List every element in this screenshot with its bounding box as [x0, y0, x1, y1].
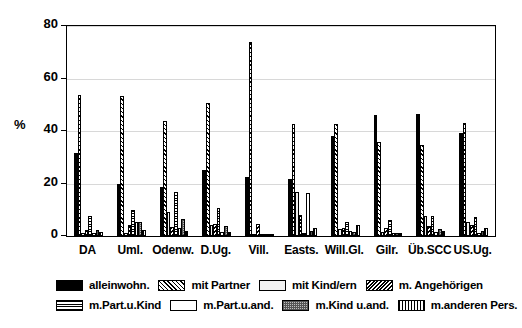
legend-swatch-light-gray	[259, 280, 286, 291]
bar-group	[238, 26, 281, 236]
legend-label: m.Part.u.Kind	[89, 299, 161, 311]
bar	[377, 142, 381, 236]
y-tick-label: 60	[0, 69, 58, 84]
bar	[206, 103, 210, 236]
bar-group	[153, 26, 196, 236]
plot-area	[66, 25, 496, 237]
legend-label: m.anderen Pers.	[431, 299, 518, 311]
bar	[120, 96, 124, 236]
legend-swatch-grid-hatch	[56, 300, 83, 311]
y-tick-label: 80	[0, 16, 58, 31]
bar	[99, 232, 103, 236]
legend-item[interactable]: alleinwohn.	[56, 279, 158, 291]
bar-group	[452, 26, 495, 236]
bar-group	[409, 26, 452, 236]
bar	[142, 230, 146, 236]
bar	[78, 95, 82, 236]
legend-swatch-gray-speckle	[282, 300, 309, 311]
legend-label: alleinwohn.	[89, 279, 149, 291]
bar	[249, 42, 253, 236]
legend-swatch-diagonal-hatch	[158, 280, 185, 291]
bar	[399, 233, 403, 236]
legend-item[interactable]: m. Angehörigen	[366, 279, 492, 291]
legend-item[interactable]: mit Kind/ern	[259, 279, 366, 291]
bar	[313, 228, 317, 236]
y-tick-label: 20	[0, 174, 58, 189]
bar	[463, 123, 467, 236]
bar	[484, 228, 488, 236]
y-axis: % 020406080	[0, 0, 66, 238]
legend-swatch-solid-black	[56, 280, 83, 291]
legend-label: m.Part.u.and.	[203, 299, 273, 311]
legend-swatch-vertical-stripe	[398, 300, 425, 311]
bar	[228, 232, 232, 236]
bar	[334, 124, 338, 236]
chart-legend: alleinwohn.mit Partnermit Kind/ernm. Ang…	[56, 275, 476, 315]
legend-swatch-white	[170, 300, 197, 311]
bar-group	[67, 26, 110, 236]
legend-item[interactable]: m.Part.u.and.	[170, 299, 282, 311]
bar-group	[110, 26, 153, 236]
bar	[270, 234, 274, 236]
legend-row-2: m.Part.u.Kindm.Part.u.and.m.Kind u.and.m…	[56, 295, 476, 315]
legend-item[interactable]: m.Kind u.and.	[282, 299, 397, 311]
x-tick-label: US.Ug.	[445, 243, 500, 257]
legend-label: m.Kind u.and.	[315, 299, 388, 311]
bar	[442, 231, 446, 236]
legend-label: m. Angehörigen	[399, 279, 483, 291]
legend-item[interactable]: m.Part.u.Kind	[56, 299, 170, 311]
bar-group	[324, 26, 367, 236]
legend-item[interactable]: m.anderen Pers.	[398, 299, 522, 311]
bar	[185, 231, 189, 236]
x-axis-labels: DAUml.Odenw.D.Ug.Vill.Easts.Will.Gl.Gilr…	[66, 243, 496, 261]
y-tick-label: 0	[0, 226, 58, 241]
legend-swatch-dense-diagonal	[366, 280, 393, 291]
bar-group	[281, 26, 324, 236]
legend-label: mit Kind/ern	[292, 279, 357, 291]
y-tick-label: 40	[0, 121, 58, 136]
legend-item[interactable]: mit Partner	[158, 279, 259, 291]
bar-group	[367, 26, 410, 236]
bar	[306, 193, 310, 236]
bar	[356, 225, 360, 236]
legend-row-1: alleinwohn.mit Partnermit Kind/ernm. Ang…	[56, 275, 476, 295]
bar-group	[195, 26, 238, 236]
legend-label: mit Partner	[191, 279, 250, 291]
